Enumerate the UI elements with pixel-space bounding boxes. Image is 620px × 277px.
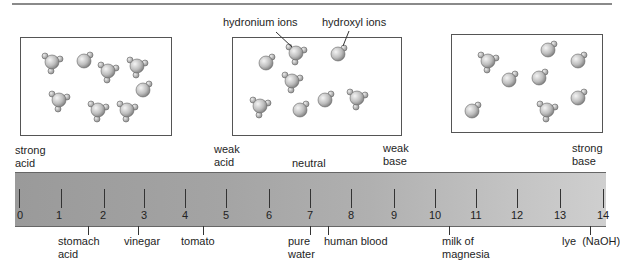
tick-8 [351,189,352,208]
tick-10 [435,189,436,208]
strong-base-label: strongbase [572,142,603,168]
tick-13 [560,189,561,208]
weak-base-label: weakbase [383,142,409,168]
tick-11 [476,189,477,208]
neutral-label: neutral [292,157,326,170]
ph-9: 9 [391,209,397,221]
tick-1 [61,189,62,208]
ph-3: 3 [141,209,147,221]
tick-2 [104,189,105,208]
tick-0 [19,189,20,208]
ph-14: 14 [597,209,609,221]
ph-5: 5 [223,209,229,221]
tick-3 [144,189,145,208]
ph-13: 13 [554,209,566,221]
ph-8: 8 [348,209,354,221]
ph-0: 0 [17,209,23,221]
tick-4 [185,189,186,208]
ph-4: 4 [182,209,188,221]
ph-1: 1 [56,209,62,221]
ph-6: 6 [266,209,272,221]
tick-14 [603,189,604,208]
ph-7: 7 [307,209,313,221]
tick-9 [394,189,395,208]
ph-scale-bar: 0 1 2 3 4 5 6 7 8 9 10 11 12 13 14 [15,172,606,227]
ph-10: 10 [429,209,441,221]
tick-7 [310,189,311,208]
weak-acid-label: weakacid [214,143,240,169]
tick-12 [517,189,518,208]
tick-6 [269,189,270,208]
tick-5 [226,189,227,208]
ph-11: 11 [470,209,481,221]
strong-acid-label: strongacid [15,144,46,170]
ph-12: 12 [511,209,523,221]
ph-2: 2 [100,209,106,221]
ion-pointer-lines [0,0,620,60]
